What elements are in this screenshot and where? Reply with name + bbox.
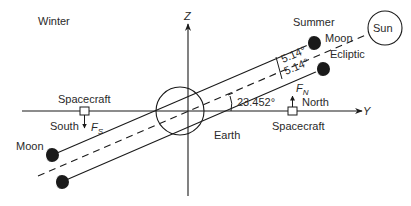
moon-icon-summer-lower bbox=[315, 62, 330, 76]
moon-label-upper: Moon bbox=[325, 32, 353, 44]
moon-icon-winter-lower bbox=[54, 175, 69, 189]
sun-label: Sun bbox=[373, 22, 393, 34]
south-label: South bbox=[50, 120, 79, 132]
earth-label: Earth bbox=[214, 129, 240, 141]
moon-label-left: Moon bbox=[16, 140, 44, 152]
moon-icon-summer-upper bbox=[306, 36, 321, 50]
spacecraft-icon-south bbox=[80, 107, 89, 115]
winter-label: Winter bbox=[38, 15, 70, 27]
spacecraft-label-south: Spacecraft bbox=[58, 93, 111, 105]
y-axis-label: Y bbox=[363, 105, 371, 117]
force-north-label: FN bbox=[296, 82, 309, 97]
summer-label: Summer bbox=[293, 16, 335, 28]
north-label: North bbox=[302, 96, 329, 108]
force-south-label: FS bbox=[91, 121, 104, 136]
moon-icon-winter-upper bbox=[44, 148, 59, 162]
spacecraft-label-north: Spacecraft bbox=[272, 120, 325, 132]
z-axis-label: Z bbox=[183, 10, 192, 22]
ecliptic-label: Ecliptic bbox=[330, 48, 365, 60]
obliquity-label: 23.452° bbox=[237, 96, 275, 108]
spacecraft-icon-north bbox=[288, 107, 297, 115]
lunar-solar-perturbation-diagram: Y Z Earth 5.14° 5.14° 23.452° Sun Winter… bbox=[0, 0, 411, 206]
